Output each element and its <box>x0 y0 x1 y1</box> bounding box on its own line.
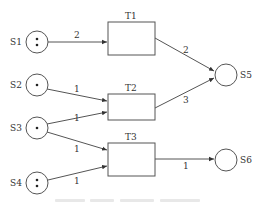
transition-label: T2 <box>125 83 137 93</box>
weight-s3-t3: 1 <box>74 144 80 154</box>
token-icon <box>36 84 39 87</box>
weight-s4-t3: 1 <box>74 176 80 186</box>
token-icon <box>36 44 39 47</box>
place-label: S5 <box>240 70 252 80</box>
weight-s2-t2: 1 <box>74 84 80 94</box>
weight-s3-t2: 1 <box>74 113 80 123</box>
transition-t1: T1 <box>108 11 155 55</box>
weight-t1-s5: 2 <box>183 45 189 55</box>
place-label: S6 <box>240 155 252 165</box>
place-s6: S6 <box>215 149 252 171</box>
place-label: S4 <box>10 178 22 188</box>
place-label: S1 <box>10 37 22 47</box>
caption-faded <box>55 199 200 202</box>
token-icon <box>36 127 39 130</box>
weight-s1-t1: 2 <box>74 30 80 40</box>
place-label: S2 <box>10 80 22 90</box>
token-icon <box>36 38 39 41</box>
weight-t2-s5: 3 <box>183 95 189 105</box>
place-s2: S2 <box>10 74 48 96</box>
place-s5: S5 <box>215 64 252 86</box>
token-icon <box>36 185 39 188</box>
transition-t2: T2 <box>108 83 155 120</box>
weight-t3-s6: 1 <box>183 161 189 171</box>
place-s1: S1 <box>10 31 48 53</box>
transition-label: T1 <box>125 11 137 21</box>
place-label: S3 <box>10 123 22 133</box>
place-s4: S4 <box>10 172 48 194</box>
transition-t3: T3 <box>108 132 155 176</box>
transition-label: T3 <box>125 132 137 142</box>
place-s3: S3 <box>10 117 48 139</box>
token-icon <box>36 179 39 182</box>
petri-net-diagram: 2 1 1 1 1 2 3 1 T1 T2 T3 S1 S2 S3 S4 <box>0 0 262 204</box>
